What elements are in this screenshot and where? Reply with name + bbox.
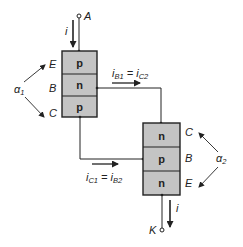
wire-c1-b2 [80,117,143,159]
transistor2-block: n p n [143,123,180,195]
alpha1-arrow-collector [25,97,44,117]
thyristor-two-transistor-diagram: A i p n p E B C α1 iB1 = iC2 iC1 = iB2 n… [0,0,243,247]
t2-layer-bottom: n [158,177,165,189]
t1-layer-top: p [76,57,83,69]
transistor1-block: p n p [62,51,97,117]
link-bottom-label: iC1 = iB2 [86,171,123,185]
wire-b1-c2 [97,88,161,123]
alpha1-label: α1 [14,83,24,97]
alpha1-arrow-emitter [24,65,45,82]
cathode-terminal [160,194,164,232]
t2-base-label: B [185,152,192,164]
current-label-top: i [65,25,68,37]
link-top-label: iB1 = iC2 [112,67,149,81]
t1-layer-middle: n [76,79,83,91]
alpha2-arrow-emitter [199,167,218,187]
current-label-bottom: i [176,202,179,214]
t2-layer-top: n [158,130,165,142]
alpha2-arrow-collector [199,133,218,152]
anode-terminal [77,14,81,52]
t2-layer-middle: p [158,153,165,165]
t1-base-label: B [49,82,56,94]
alpha2-label: α2 [216,152,227,166]
t1-emitter-label: E [49,58,57,70]
t1-layer-bottom: p [76,101,83,113]
anode-label: A [83,10,91,22]
cathode-label: K [149,224,157,236]
t1-collector-label: C [49,107,57,119]
t2-emitter-label: E [185,177,193,189]
t2-collector-label: C [185,126,193,138]
